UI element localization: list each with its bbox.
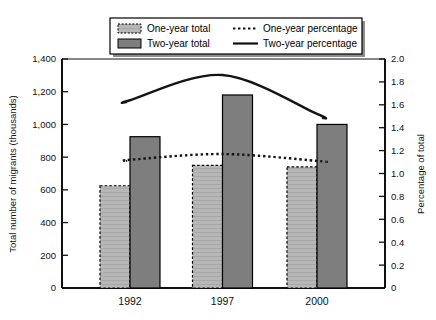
y-tick-label-left: 800: [40, 152, 56, 163]
y-tick-label-right: 0.6: [391, 214, 404, 225]
x-axis-category-label: 1992: [118, 295, 142, 307]
legend-swatch-one-year-total: [118, 24, 141, 33]
y-tick-label-right: 0.2: [391, 260, 404, 271]
y-tick-label-right: 0.8: [391, 191, 404, 202]
legend-swatch-two-year-total: [118, 39, 141, 48]
y-tick-label-right: 1.8: [391, 76, 404, 87]
legend-label-one-year-percentage: One-year percentage: [263, 23, 358, 34]
y-tick-label-left: 400: [40, 217, 56, 228]
y-tick-label-right: 0.4: [391, 237, 404, 248]
chart-legend: One-year total One-year percentage Two-y…: [110, 18, 365, 57]
bar-two-year-total: [223, 95, 253, 288]
chart-figure: One-year total One-year percentage Two-y…: [0, 0, 436, 320]
x-axis-category-label: 1997: [211, 295, 235, 307]
chart-svg: One-year total One-year percentage Two-y…: [0, 0, 436, 320]
bar-two-year-total: [317, 124, 347, 288]
legend-label-one-year-total: One-year total: [147, 23, 210, 34]
y-tick-label-left: 0: [51, 282, 56, 293]
y-tick-label-right: 1.0: [391, 168, 404, 179]
y-tick-label-left: 1,000: [32, 119, 56, 130]
y-tick-label-left: 200: [40, 250, 56, 261]
y-tick-label-left: 1,200: [32, 86, 56, 97]
y-tick-label-right: 0: [391, 282, 396, 293]
y-tick-label-right: 1.2: [391, 145, 404, 156]
y-axis-title-left: Total number of migrants (thousands): [7, 95, 18, 252]
bar-one-year-total: [287, 167, 317, 288]
bar-one-year-total: [193, 165, 223, 288]
y-tick-label-left: 600: [40, 184, 56, 195]
y-tick-label-right: 2.0: [391, 53, 404, 64]
y-tick-label-right: 1.6: [391, 99, 404, 110]
legend-label-two-year-total: Two-year total: [147, 38, 210, 49]
x-axis-category-label: 2000: [305, 295, 329, 307]
y-tick-label-left: 1,400: [32, 53, 56, 64]
legend-label-two-year-percentage: Two-year percentage: [263, 38, 357, 49]
y-tick-label-right: 1.4: [391, 122, 404, 133]
bar-one-year-total: [100, 186, 130, 288]
y-axis-title-right: Percentage of total: [415, 134, 426, 214]
